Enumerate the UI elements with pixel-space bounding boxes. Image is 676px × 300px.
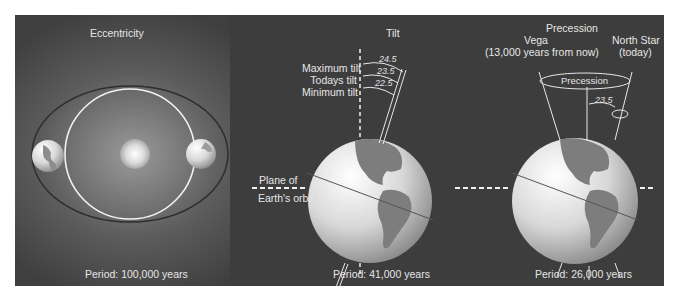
earth-icon-right (186, 139, 216, 169)
orbit-plane-label-bottom: Earth's orbit (258, 192, 314, 204)
precession-title: Precession (546, 22, 598, 34)
precession-angle: 23.5 (595, 94, 613, 106)
eccentricity-period: Period: 100,000 years (85, 268, 188, 280)
earth-icon-left (32, 140, 64, 172)
diagram-panel: Eccentricity Period: 100,000 years Tilt … (15, 15, 664, 286)
north-star-label: North Star (612, 34, 660, 46)
spin-circle (612, 110, 628, 118)
tilt-period: Period: 41,000 years (333, 268, 430, 280)
eccentricity-title: Eccentricity (90, 27, 144, 39)
tilt-label-max: Maximum tilt (302, 62, 357, 74)
eccentricity-diagram (32, 86, 228, 222)
tilt-angle-today: 23.5 (377, 65, 395, 77)
tilt-label-min: Minimum tilt (302, 86, 357, 98)
precession-diagram (512, 72, 638, 280)
tilt-label-today: Todays tilt (302, 74, 357, 86)
tilt-title: Tilt (386, 27, 400, 39)
tilt-angle-min: 22.5 (375, 77, 393, 89)
precession-period: Period: 26,000 years (535, 268, 632, 280)
tilt-angle-max: 24.5 (379, 53, 397, 65)
north-star-sublabel: (today) (619, 46, 652, 58)
precession-cone-label: Precession (561, 75, 608, 87)
orbit-plane-label-top: Plane of (259, 174, 298, 186)
sun-icon (110, 129, 160, 179)
vega-label: Vega (524, 34, 548, 46)
vega-sublabel: (13,000 years from now) (485, 46, 599, 58)
